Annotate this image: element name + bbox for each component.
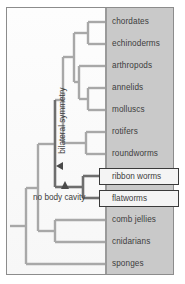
callout-flatworms: flatworms xyxy=(99,190,179,207)
taxon-label-echinoderms: echinoderms xyxy=(112,39,160,49)
callout-ribbon-worms: ribbon worms xyxy=(99,168,179,185)
annotation-label-bilateral-symmetry: bilateral symmetry xyxy=(58,80,67,162)
triangle-left-icon xyxy=(56,162,63,170)
callout-label-ribbon-worms: ribbon worms xyxy=(112,172,161,182)
annotation-bilateral-symmetry: bilateral symmetry xyxy=(55,78,69,170)
triangle-up-icon xyxy=(61,181,69,189)
taxon-label-annelids: annelids xyxy=(112,83,143,93)
taxon-label-chordates: chordates xyxy=(112,17,149,27)
cladogram-figure: chordates echinoderms arthropods annelid… xyxy=(0,0,185,284)
taxon-label-arthropods: arthropods xyxy=(112,61,152,71)
annotation-no-body-cavity: no body cavity xyxy=(33,181,105,203)
taxon-label-cnidarians: cnidarians xyxy=(112,237,150,247)
taxon-label-comb-jellies: comb jellies xyxy=(112,215,156,225)
taxon-label-rotifers: rotifers xyxy=(112,127,138,137)
callout-label-flatworms: flatworms xyxy=(112,194,147,204)
annotation-label-no-body-cavity: no body cavity xyxy=(33,193,85,202)
taxon-label-molluscs: molluscs xyxy=(112,105,145,115)
taxon-label-roundworms: roundworms xyxy=(112,149,158,159)
taxon-label-sponges: sponges xyxy=(112,259,144,269)
